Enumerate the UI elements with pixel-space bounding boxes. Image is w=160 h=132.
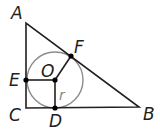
label-a: A xyxy=(10,3,23,23)
segment-of xyxy=(55,56,71,80)
label-f: F xyxy=(74,37,84,57)
point-d xyxy=(52,105,57,110)
label-e: E xyxy=(9,70,20,90)
label-o: O xyxy=(41,61,54,81)
label-d: D xyxy=(49,111,62,131)
geometry-diagram: A F O E r C D B xyxy=(0,0,160,132)
label-r: r xyxy=(59,87,66,103)
point-f xyxy=(68,53,73,58)
point-e xyxy=(23,77,28,82)
label-c: C xyxy=(9,105,21,125)
label-b: B xyxy=(143,104,155,124)
